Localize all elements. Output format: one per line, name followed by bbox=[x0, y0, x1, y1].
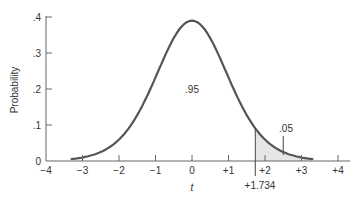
x-axis-title: t bbox=[191, 182, 195, 193]
y-axis-title: Probability bbox=[9, 67, 20, 114]
y-tick-label: .4 bbox=[33, 12, 42, 23]
y-axis-ticks: 0.1.2.3.4 bbox=[33, 12, 52, 167]
x-tick-label: +1 bbox=[223, 165, 235, 176]
center-area-label: .95 bbox=[185, 84, 199, 95]
x-tick-label: −1 bbox=[150, 165, 162, 176]
x-tick-label: +2 bbox=[259, 165, 271, 176]
x-tick-label: −4 bbox=[40, 165, 52, 176]
x-tick-label: 0 bbox=[189, 165, 195, 176]
axes bbox=[46, 16, 350, 176]
x-tick-label: −2 bbox=[113, 165, 125, 176]
y-tick-label: 0 bbox=[35, 156, 41, 167]
x-tick-label: +4 bbox=[332, 165, 344, 176]
t-distribution-chart: −4−3−2−10+1+2+3+4 0.1.2.3.4 Probability … bbox=[0, 0, 362, 203]
tail-area-label: .05 bbox=[279, 123, 293, 134]
y-tick-label: .2 bbox=[33, 84, 42, 95]
y-tick-label: .3 bbox=[33, 48, 42, 59]
x-tick-label: −3 bbox=[77, 165, 89, 176]
x-tick-label: +3 bbox=[296, 165, 308, 176]
critical-value-label: +1.734 bbox=[245, 180, 276, 191]
y-tick-label: .1 bbox=[33, 120, 42, 131]
